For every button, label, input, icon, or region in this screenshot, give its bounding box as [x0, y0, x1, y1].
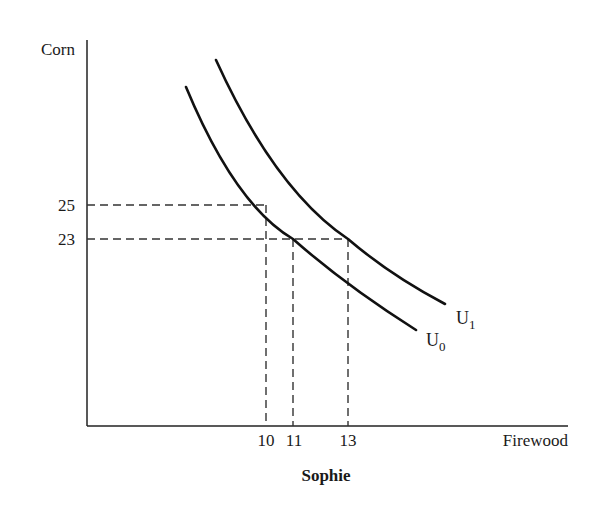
curve-label-u1: U1 — [456, 308, 476, 332]
reference-lines — [87, 205, 348, 426]
curve-u1 — [216, 60, 445, 304]
x-axis-label: Firewood — [503, 431, 569, 450]
indifference-curve-chart: Corn Firewood Sophie 25 23 10 11 13 U1 U… — [0, 0, 597, 520]
y-axis-label: Corn — [41, 40, 76, 59]
x-tick-11: 11 — [286, 431, 302, 450]
y-tick-25: 25 — [58, 196, 75, 215]
curve-label-u0: U0 — [426, 330, 446, 354]
chart-title: Sophie — [301, 466, 351, 485]
x-tick-13: 13 — [340, 431, 357, 450]
x-tick-10: 10 — [258, 431, 275, 450]
y-tick-23: 23 — [58, 230, 75, 249]
curve-u0 — [186, 87, 416, 330]
